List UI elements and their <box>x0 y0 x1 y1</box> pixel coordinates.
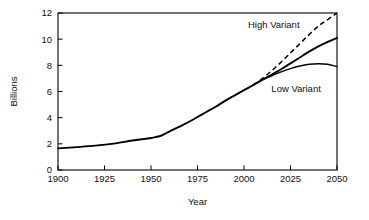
series-path <box>253 64 337 85</box>
series-annotation-label: High Variant <box>248 19 300 30</box>
series-group <box>58 13 337 148</box>
x-axis-ticks: 1900192519501975200020252050 <box>47 166 347 185</box>
x-tick-label: 2050 <box>326 173 347 184</box>
y-tick-label: 8 <box>47 60 52 71</box>
x-axis-title: Year <box>188 196 207 207</box>
y-tick-label: 6 <box>47 86 52 97</box>
y-tick-label: 4 <box>47 112 52 123</box>
x-tick-label: 1900 <box>47 173 68 184</box>
x-tick-label: 1975 <box>187 173 208 184</box>
x-tick-label: 1925 <box>94 173 115 184</box>
y-axis-title: Billions <box>8 76 19 106</box>
x-tick-label: 1950 <box>140 173 161 184</box>
y-tick-label: 10 <box>41 34 52 45</box>
x-tick-label: 2025 <box>280 173 301 184</box>
series-annotation-label: Low Variant <box>271 83 321 94</box>
chart-canvas: 024681012 1900192519501975200020252050 H… <box>0 0 369 220</box>
y-tick-label: 2 <box>47 138 52 149</box>
annotation-group: High VariantLow Variant <box>248 19 321 94</box>
population-projection-chart: 024681012 1900192519501975200020252050 H… <box>0 0 369 220</box>
y-axis-ticks: 024681012 <box>41 7 62 175</box>
x-tick-label: 2000 <box>233 173 254 184</box>
y-tick-label: 12 <box>41 7 52 18</box>
